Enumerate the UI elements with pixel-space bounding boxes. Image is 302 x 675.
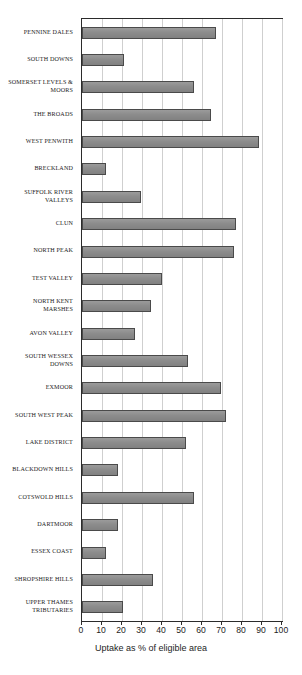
category-label: TEST VALLEY bbox=[0, 264, 77, 291]
bar-slot bbox=[82, 293, 282, 320]
bar-chart: PENNINE DALESSOUTH DOWNSSOMERSET LEVELS … bbox=[0, 0, 302, 675]
bar-slot bbox=[82, 511, 282, 538]
bar[interactable] bbox=[82, 163, 106, 175]
category-label: SOUTH WESSEX DOWNS bbox=[0, 346, 77, 373]
x-axis-tick-label: 90 bbox=[256, 625, 266, 636]
category-label: UPPER THAMES TRIBUTARIES bbox=[0, 593, 77, 620]
bar[interactable] bbox=[82, 27, 216, 39]
x-axis-tick-label: 40 bbox=[156, 625, 166, 636]
bar-slot bbox=[82, 566, 282, 593]
category-label: LAKE DISTRICT bbox=[0, 428, 77, 455]
bar-series bbox=[82, 19, 282, 621]
x-axis-tick-label: 50 bbox=[176, 625, 186, 636]
bar-slot bbox=[82, 211, 282, 238]
bar[interactable] bbox=[82, 492, 194, 504]
bar-slot bbox=[82, 74, 282, 101]
bar[interactable] bbox=[82, 601, 123, 613]
bar[interactable] bbox=[82, 191, 141, 203]
bar[interactable] bbox=[82, 300, 151, 312]
category-label: SOUTH WEST PEAK bbox=[0, 401, 77, 428]
bar[interactable] bbox=[82, 355, 188, 367]
category-label: SUFFOLK RIVER VALLEYS bbox=[0, 182, 77, 209]
category-label: BRECKLAND bbox=[0, 155, 77, 182]
bar[interactable] bbox=[82, 109, 211, 121]
x-axis-tick-label: 0 bbox=[79, 625, 84, 636]
bar-slot bbox=[82, 128, 282, 155]
bar-slot bbox=[82, 402, 282, 429]
category-label: SOUTH DOWNS bbox=[0, 45, 77, 72]
category-label: WEST PENWITH bbox=[0, 127, 77, 154]
category-label: ESSEX COAST bbox=[0, 538, 77, 565]
plot-area bbox=[81, 18, 283, 622]
bar-slot bbox=[82, 375, 282, 402]
x-axis-tick-label: 20 bbox=[116, 625, 126, 636]
x-axis-tick-label: 30 bbox=[136, 625, 146, 636]
bar-slot bbox=[82, 429, 282, 456]
bar[interactable] bbox=[82, 246, 234, 258]
x-axis-title: Uptake as % of eligible area bbox=[0, 642, 302, 655]
bar[interactable] bbox=[82, 54, 124, 66]
bar-slot bbox=[82, 183, 282, 210]
category-axis-labels: PENNINE DALESSOUTH DOWNSSOMERSET LEVELS … bbox=[0, 18, 77, 620]
bar[interactable] bbox=[82, 574, 153, 586]
bar[interactable] bbox=[82, 273, 162, 285]
bar[interactable] bbox=[82, 547, 106, 559]
x-axis-tick-label: 100 bbox=[274, 625, 288, 636]
category-label: COTSWOLD HILLS bbox=[0, 483, 77, 510]
category-label: NORTH PEAK bbox=[0, 237, 77, 264]
category-label: SHROPSHIRE HILLS bbox=[0, 565, 77, 592]
category-label: NORTH KENT MARSHES bbox=[0, 292, 77, 319]
bar-slot bbox=[82, 457, 282, 484]
x-axis-tick-label: 80 bbox=[236, 625, 246, 636]
category-label: CLUN bbox=[0, 210, 77, 237]
bar-slot bbox=[82, 347, 282, 374]
bar[interactable] bbox=[82, 437, 186, 449]
bar[interactable] bbox=[82, 328, 135, 340]
bar-slot bbox=[82, 320, 282, 347]
category-label: EXMOOR bbox=[0, 374, 77, 401]
category-label: DARTMOOR bbox=[0, 510, 77, 537]
x-axis-tick-label: 60 bbox=[196, 625, 206, 636]
category-label: SOMERSET LEVELS & MOORS bbox=[0, 73, 77, 100]
bar-slot bbox=[82, 265, 282, 292]
x-axis-tick-label: 70 bbox=[216, 625, 226, 636]
bar-slot bbox=[82, 46, 282, 73]
category-label: PENNINE DALES bbox=[0, 18, 77, 45]
bar[interactable] bbox=[82, 382, 221, 394]
bar-slot bbox=[82, 238, 282, 265]
bar-slot bbox=[82, 594, 282, 621]
bar[interactable] bbox=[82, 464, 118, 476]
bar-slot bbox=[82, 19, 282, 46]
bar[interactable] bbox=[82, 81, 194, 93]
x-axis-tick-labels: 0102030405060708090100 bbox=[81, 625, 281, 637]
bar[interactable] bbox=[82, 218, 236, 230]
bar[interactable] bbox=[82, 136, 259, 148]
bar[interactable] bbox=[82, 519, 118, 531]
bar-slot bbox=[82, 539, 282, 566]
category-label: THE BROADS bbox=[0, 100, 77, 127]
x-axis-tick-label: 10 bbox=[96, 625, 106, 636]
bar-slot bbox=[82, 101, 282, 128]
category-label: BLACKDOWN HILLS bbox=[0, 456, 77, 483]
bar[interactable] bbox=[82, 410, 226, 422]
gridline bbox=[282, 19, 283, 621]
category-label: AVON VALLEY bbox=[0, 319, 77, 346]
bar-slot bbox=[82, 484, 282, 511]
bar-slot bbox=[82, 156, 282, 183]
